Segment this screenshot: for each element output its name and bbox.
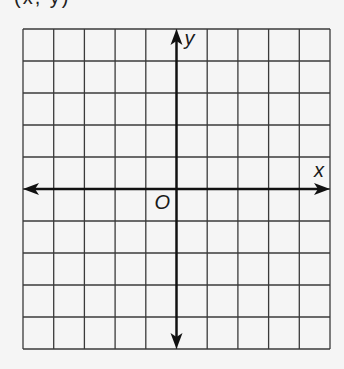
x-axis-label: x [314, 159, 324, 182]
coordinate-plane [0, 0, 344, 369]
y-axis-label: y [185, 27, 195, 50]
axes [23, 29, 330, 349]
origin-label: O [155, 191, 171, 214]
